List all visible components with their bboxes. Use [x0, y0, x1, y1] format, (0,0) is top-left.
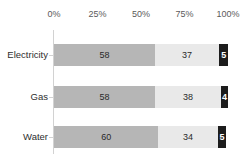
- bar-segment: 60: [54, 126, 158, 148]
- category-label: Electricity: [0, 44, 48, 66]
- stacked-bar: 58375: [54, 44, 228, 66]
- bar-segment-value: 58: [99, 50, 109, 60]
- bar-segment-value: 60: [101, 132, 111, 142]
- bar-segment-value: 37: [182, 50, 192, 60]
- bar-segment: 5: [219, 44, 228, 66]
- chart-row: Water60345: [0, 126, 243, 148]
- chart-row: Gas58384: [0, 86, 243, 108]
- bar-segment: 5: [218, 126, 227, 148]
- category-axis-tick: [49, 55, 54, 56]
- category-axis-tick: [49, 97, 54, 98]
- bar-segment: 4: [221, 86, 228, 108]
- chart-row: Electricity58375: [0, 44, 243, 66]
- bar-segment-value: 4: [222, 92, 227, 102]
- bar-segment: 34: [158, 126, 217, 148]
- bar-segment-value: 5: [221, 50, 226, 60]
- bar-segment: 37: [155, 44, 219, 66]
- bar-segment: 38: [155, 86, 221, 108]
- category-label: Gas: [0, 86, 48, 108]
- category-axis-tick: [49, 137, 54, 138]
- bar-segment-value: 34: [183, 132, 193, 142]
- chart-plot-area: Electricity58375Gas58384Water60345: [0, 0, 243, 163]
- bar-segment-value: 5: [219, 132, 224, 142]
- stacked-bar-chart: 0%25%50%75%100% Electricity58375Gas58384…: [0, 0, 243, 163]
- bar-segment: 58: [54, 44, 155, 66]
- stacked-bar: 58384: [54, 86, 228, 108]
- bar-segment: 58: [54, 86, 155, 108]
- bar-segment-value: 58: [99, 92, 109, 102]
- category-label: Water: [0, 126, 48, 148]
- stacked-bar: 60345: [54, 126, 228, 148]
- bar-segment-value: 38: [183, 92, 193, 102]
